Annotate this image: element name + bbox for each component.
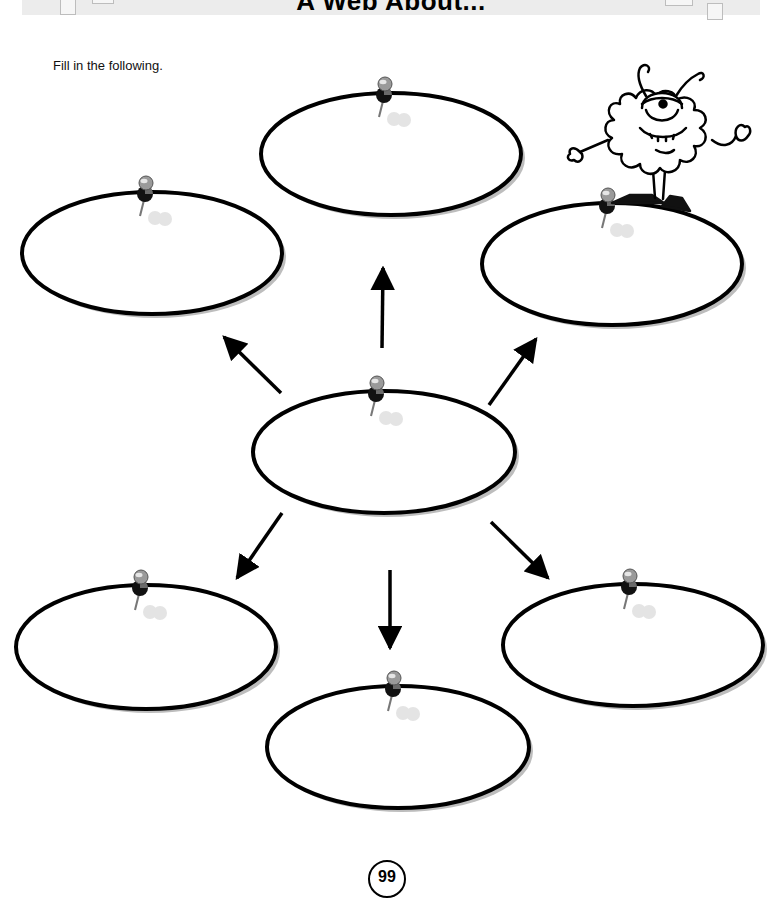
bubble-bottom-left[interactable] [16,570,280,713]
arrow-up-left-icon [224,337,281,393]
arrow-down-right-icon [491,522,548,578]
bubble-bottom-right[interactable] [503,569,767,710]
bubble-top-right[interactable] [482,188,746,329]
bubble-bottom-center[interactable] [267,671,533,812]
arrow-up-right-icon [489,339,536,405]
arrow-up-icon [382,268,383,348]
page-number-badge: 99 [368,860,406,898]
bubble-center[interactable] [253,376,519,517]
bubble-top-left[interactable] [22,176,286,318]
bubble-top[interactable] [261,77,525,219]
monster-illustration [568,65,750,211]
arrow-down-left-icon [237,513,282,578]
